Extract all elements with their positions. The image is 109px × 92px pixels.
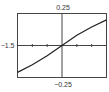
y-min-label: −0.25	[54, 81, 72, 88]
y-max-label: 0.25	[56, 4, 70, 11]
chart: 0.25 −0.25 −1.5	[0, 0, 109, 92]
x-min-label: −1.5	[1, 42, 15, 49]
